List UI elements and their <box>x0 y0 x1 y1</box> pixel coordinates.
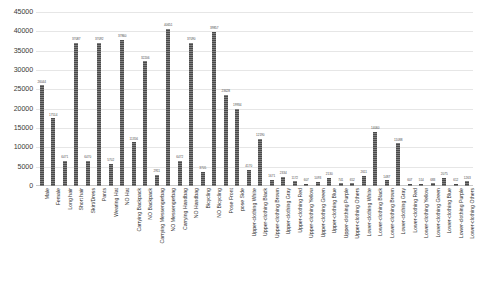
bar[interactable] <box>373 132 377 186</box>
bar[interactable] <box>327 178 331 186</box>
bar-group[interactable]: 40651 <box>163 12 175 186</box>
bar[interactable] <box>408 184 412 186</box>
bar-value-label: 37090 <box>187 38 196 41</box>
x-label-slot: Male <box>36 188 48 282</box>
bar-group[interactable]: 3705 <box>197 12 209 186</box>
bar-group[interactable]: 17514 <box>48 12 60 186</box>
bar-group[interactable]: 683 <box>427 12 439 186</box>
bar-group[interactable]: 1263 <box>462 12 474 186</box>
bars-layer: 2604417514647137087647037092570237860113… <box>36 12 473 186</box>
bar-value-label: 1172 <box>291 177 298 180</box>
bar-group[interactable]: 6471 <box>59 12 71 186</box>
bar[interactable] <box>419 184 423 186</box>
bar[interactable] <box>304 184 308 186</box>
bar[interactable] <box>339 183 343 186</box>
bar-value-label: 11356 <box>130 138 138 141</box>
bar-value-label: 1487 <box>383 176 390 179</box>
bar-group[interactable]: 39857 <box>209 12 221 186</box>
bar-group[interactable]: 1671 <box>266 12 278 186</box>
bar-group[interactable]: 6470 <box>82 12 94 186</box>
bar[interactable] <box>316 182 320 186</box>
bar[interactable] <box>442 178 446 186</box>
bar[interactable] <box>396 143 400 186</box>
bar-group[interactable]: 23628 <box>220 12 232 186</box>
bar-group[interactable]: 6472 <box>174 12 186 186</box>
bar-group[interactable]: 2075 <box>439 12 451 186</box>
bar[interactable] <box>120 40 124 186</box>
bar-group[interactable]: 11088 <box>393 12 405 186</box>
bar-group[interactable]: 607 <box>301 12 313 186</box>
bar-group[interactable]: 37087 <box>71 12 83 186</box>
bar[interactable] <box>189 43 193 186</box>
bar[interactable] <box>40 85 44 186</box>
bar-group[interactable]: 37090 <box>186 12 198 186</box>
x-label-slot: Lower-clothing Yellow <box>416 188 428 282</box>
bar[interactable] <box>74 43 78 186</box>
bar-group[interactable]: 1172 <box>289 12 301 186</box>
bar[interactable] <box>51 118 55 186</box>
bar[interactable] <box>293 181 297 186</box>
bar-group[interactable]: 37092 <box>94 12 106 186</box>
x-label-slot: NO Bicycling <box>209 188 221 282</box>
bar-value-label: 1671 <box>268 175 275 178</box>
bar-group[interactable]: 607 <box>404 12 416 186</box>
bar[interactable] <box>270 180 274 186</box>
bar[interactable] <box>465 181 469 186</box>
bar-group[interactable]: 4170 <box>243 12 255 186</box>
bar[interactable] <box>178 161 182 186</box>
bar-group[interactable]: 5702 <box>105 12 117 186</box>
bar-group[interactable]: 1487 <box>381 12 393 186</box>
bar-group[interactable]: 19934 <box>232 12 244 186</box>
bar[interactable] <box>258 139 262 186</box>
y-tick-label: 30000 <box>14 66 33 74</box>
bar[interactable] <box>362 176 366 186</box>
x-label-slot: Lower-clothing Black <box>370 188 382 282</box>
bar[interactable] <box>201 172 205 186</box>
bar[interactable] <box>155 175 159 186</box>
bar-group[interactable]: 37860 <box>117 12 129 186</box>
bar[interactable] <box>350 183 354 186</box>
y-tick-label: 40000 <box>14 27 33 35</box>
bar-group[interactable]: 612 <box>450 12 462 186</box>
bar-group[interactable]: 26044 <box>36 12 48 186</box>
bar[interactable] <box>166 29 170 186</box>
bar[interactable] <box>431 183 435 186</box>
bar[interactable] <box>143 61 147 186</box>
bar-group[interactable]: 652 <box>347 12 359 186</box>
bar-value-label: 607 <box>304 179 309 182</box>
bar-group[interactable]: 1093 <box>312 12 324 186</box>
bar-group[interactable]: 2130 <box>324 12 336 186</box>
x-label-slot: Carrying Messengerbag <box>151 188 163 282</box>
bar-group[interactable]: 514 <box>416 12 428 186</box>
bar-value-label: 40651 <box>164 24 173 27</box>
bar-group[interactable]: 11356 <box>128 12 140 186</box>
bar-group[interactable]: 741 <box>335 12 347 186</box>
bar[interactable] <box>454 184 458 186</box>
bar-value-label: 2334 <box>280 172 287 175</box>
bar[interactable] <box>132 142 136 186</box>
bar[interactable] <box>109 164 113 186</box>
bar-value-label: 39857 <box>210 27 219 30</box>
bar-group[interactable]: 2334 <box>278 12 290 186</box>
bar[interactable] <box>247 170 251 186</box>
bar-group[interactable]: 2611 <box>358 12 370 186</box>
bar[interactable] <box>86 161 90 186</box>
x-label-slot: Lower-clothing Red <box>404 188 416 282</box>
x-label-slot: Upper-clothing Gray <box>278 188 290 282</box>
bar[interactable] <box>97 43 101 186</box>
bar-group[interactable]: 32206 <box>140 12 152 186</box>
bar[interactable] <box>281 177 285 186</box>
x-label-slot: NO Backpack <box>140 188 152 282</box>
bar-group[interactable]: 14060 <box>370 12 382 186</box>
y-tick-label: 45000 <box>14 8 33 16</box>
bar[interactable] <box>235 109 239 186</box>
x-label-slot: Skirt/Dress <box>82 188 94 282</box>
bar[interactable] <box>385 180 389 186</box>
bar[interactable] <box>63 161 67 186</box>
bar[interactable] <box>224 95 228 186</box>
bar[interactable] <box>212 32 216 186</box>
bar-value-label: 37092 <box>95 38 104 41</box>
bar-group[interactable]: 2911 <box>151 12 163 186</box>
y-tick-label: 25000 <box>14 85 33 93</box>
bar-group[interactable]: 12190 <box>255 12 267 186</box>
